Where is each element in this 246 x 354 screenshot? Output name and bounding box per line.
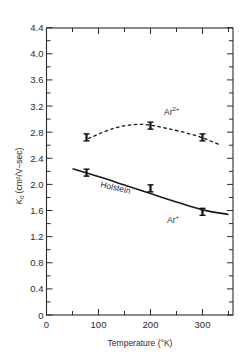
y-tick-label: 4.4	[30, 22, 43, 33]
plot-axes	[47, 28, 234, 315]
ar-2plus-error-bar	[84, 134, 90, 141]
y-tick-label: 0.8	[30, 257, 43, 268]
y-tick-label: 1.2	[30, 231, 43, 242]
y-tick-label: 3.6	[30, 74, 43, 85]
ar-plus-error-bar	[148, 185, 154, 192]
y-tick-label: 0	[38, 310, 43, 321]
holstein-annotation: Holstein	[100, 179, 132, 196]
y-tick-label: 0.4	[30, 283, 43, 294]
y-axis-label: K0(cm²/V–sec)	[14, 147, 25, 204]
x-axis-label: Temperature (°K)	[108, 338, 173, 348]
data-points	[84, 122, 206, 215]
y-tick-label: 2.4	[30, 153, 43, 164]
y-tick-label: 2.0	[30, 179, 43, 190]
y-tick-label: 4.0	[30, 48, 43, 59]
x-tick-label: 0	[44, 319, 49, 330]
ar-2plus-curve	[88, 124, 221, 145]
mobility-vs-temperature-chart: 00.40.81.21.62.02.42.83.23.64.04.4 01002…	[0, 0, 246, 354]
y-tick-label: 1.6	[30, 205, 43, 216]
plot-frame	[47, 28, 234, 315]
y-axis-ticks: 00.40.81.21.62.02.42.83.23.64.04.4	[30, 22, 233, 320]
y-tick-label: 3.2	[30, 101, 43, 112]
data-curves	[73, 124, 229, 214]
x-tick-label: 300	[195, 319, 211, 330]
y-tick-label: 2.8	[30, 127, 43, 138]
x-tick-label: 200	[143, 319, 159, 330]
x-axis-ticks: 0100200300	[44, 28, 229, 330]
ar-plus-label: Ar+	[167, 214, 180, 225]
ar-2plus-label: Ar2+	[164, 106, 180, 117]
x-tick-label: 100	[91, 319, 107, 330]
